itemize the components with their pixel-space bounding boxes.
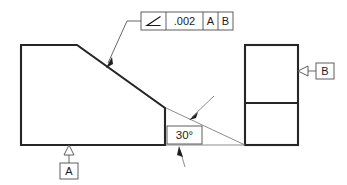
- angle-upper-arrowhead: [189, 112, 198, 120]
- basic-angle-label: 30°: [176, 129, 193, 141]
- datum-a-triangle: [64, 145, 74, 155]
- datum-b-label: B: [321, 65, 328, 77]
- datum-feature-a: A: [60, 145, 78, 179]
- drawing-svg-surface: 30° .002 A B A B: [0, 0, 347, 185]
- datum-a-label: A: [65, 165, 73, 177]
- fcf-tolerance-value: .002: [174, 15, 195, 27]
- right-part-view: [245, 45, 298, 145]
- fcf-primary-datum: A: [207, 15, 215, 27]
- angle-upper-arrow-leader: [192, 96, 214, 117]
- datum-b-triangle: [298, 66, 308, 76]
- datum-feature-b: B: [298, 63, 334, 79]
- fcf-secondary-datum: B: [222, 15, 229, 27]
- angle-lower-arrowhead: [177, 146, 183, 157]
- fcf-leader-line: [108, 21, 141, 63]
- left-part-view: [21, 45, 165, 145]
- technical-drawing-canvas: 30° .002 A B A B: [0, 0, 347, 185]
